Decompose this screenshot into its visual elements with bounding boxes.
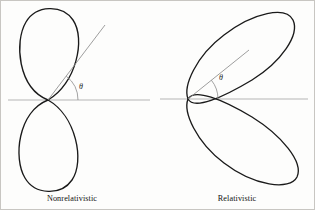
panel-nonrelativistic: θ Nonrelativistic <box>8 9 150 203</box>
caption-relativistic: Relativistic <box>218 194 257 203</box>
radiation-pattern-figure: θ Nonrelativistic θ Relativistic <box>0 0 315 210</box>
caption-nonrelativistic: Nonrelativistic <box>47 194 97 203</box>
angle-arc-relativistic <box>211 80 218 99</box>
theta-label-relativistic: θ <box>219 73 223 82</box>
upper-lobe-relativistic <box>187 13 295 104</box>
figure-border <box>1 1 315 210</box>
theta-label-nonrelativistic: θ <box>79 82 83 91</box>
upper-lobe-nonrelativistic <box>20 9 79 100</box>
figure-canvas: θ Nonrelativistic θ Relativistic <box>0 0 315 210</box>
lower-lobe-nonrelativistic <box>19 100 78 191</box>
panel-relativistic: θ Relativistic <box>160 13 308 203</box>
lower-lobe-relativistic <box>187 95 298 185</box>
angle-ray-nonrelativistic <box>48 25 105 100</box>
